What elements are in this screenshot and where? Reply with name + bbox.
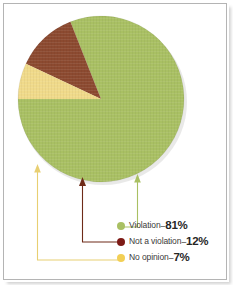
legend-percent-violation: 81% [165, 220, 187, 232]
chart-area: Violation–81% Not a violation–12% No opi… [0, 0, 233, 285]
legend-item-no-opinion[interactable]: No opinion–7% [117, 250, 229, 265]
legend-item-violation[interactable]: Violation–81% [117, 218, 229, 233]
legend-percent-not-a-violation: 12% [186, 236, 208, 248]
legend-label-not-a-violation: Not a violation [129, 237, 181, 246]
no-opinion-leader-arrow [34, 164, 41, 173]
legend-item-not-a-violation[interactable]: Not a violation–12% [117, 234, 229, 249]
legend-label-no-opinion: No opinion [129, 253, 169, 262]
legend-swatch-violation [117, 222, 125, 230]
legend: Violation–81% Not a violation–12% No opi… [117, 218, 229, 266]
legend-label-violation: Violation [129, 221, 161, 230]
pie-chart-figure: Violation–81% Not a violation–12% No opi… [0, 0, 233, 285]
legend-swatch-no-opinion [117, 254, 125, 262]
legend-percent-no-opinion: 7% [173, 252, 189, 264]
legend-swatch-not-a-violation [117, 238, 125, 246]
